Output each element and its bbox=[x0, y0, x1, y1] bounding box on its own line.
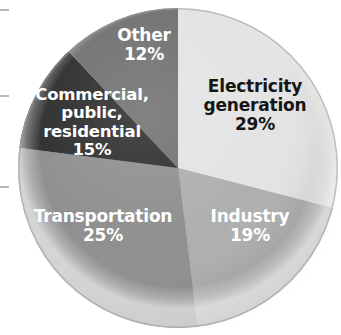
page-edge-mark bbox=[0, 9, 9, 11]
page-edge-mark bbox=[0, 95, 9, 97]
pie-chart-figure: Electricity generation 29% Industry 19% … bbox=[0, 0, 341, 335]
pie-slices-svg bbox=[10, 4, 340, 330]
pie-gloss-rim bbox=[18, 8, 338, 328]
page-edge-mark bbox=[0, 186, 9, 188]
pie-chart: Electricity generation 29% Industry 19% … bbox=[10, 4, 340, 330]
